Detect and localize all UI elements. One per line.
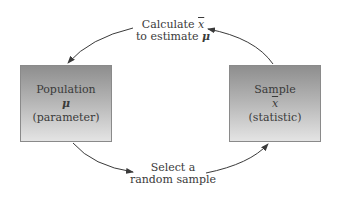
estimate-text: to estimate: [136, 30, 202, 43]
select-sample-label: Select a random sample: [123, 162, 223, 186]
random-sample-text: random sample: [123, 174, 223, 186]
population-box: Population μ (parameter): [20, 65, 112, 142]
mu-symbol: μ: [202, 30, 210, 43]
sample-title: Sample: [254, 83, 296, 97]
sample-symbol: x: [272, 97, 278, 111]
sample-box: Sample x (statistic): [229, 65, 321, 142]
population-note: (parameter): [32, 111, 99, 125]
calculate-label: Calculate x to estimate μ: [123, 19, 223, 43]
population-title: Population: [36, 83, 95, 97]
sample-note: (statistic): [249, 111, 302, 125]
population-symbol: μ: [62, 97, 70, 111]
